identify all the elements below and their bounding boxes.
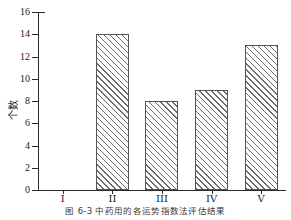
bar-series <box>38 12 286 190</box>
y-tick-label-2: 2 <box>25 163 30 173</box>
bar-slot-V <box>236 12 286 190</box>
y-tick-label-12: 12 <box>20 52 30 62</box>
y-tick-label-10: 10 <box>20 74 30 84</box>
bar-III[interactable] <box>145 101 178 190</box>
x-tick-label-I: I <box>61 194 65 204</box>
y-tick-label-4: 4 <box>25 141 30 151</box>
y-tick-label-16: 16 <box>20 7 30 17</box>
figure-caption: 图 6-3 中药用的各运势指数法评估结果 <box>0 206 291 217</box>
y-axis-title: 个数 <box>5 100 20 120</box>
bar-slot-III <box>137 12 187 190</box>
x-tick-label-III: III <box>156 194 168 204</box>
y-tick-label-14: 14 <box>20 29 30 39</box>
y-tick-label-0: 0 <box>25 185 30 195</box>
y-tick-0 <box>32 190 38 191</box>
bar-IV[interactable] <box>195 90 228 190</box>
bar-slot-I <box>38 12 88 190</box>
bar-V[interactable] <box>245 45 278 190</box>
plot-area: 0246810121416 <box>38 12 286 190</box>
bar-slot-II <box>88 12 138 190</box>
y-tick-label-8: 8 <box>25 96 30 106</box>
x-tick-label-IV: IV <box>206 194 217 204</box>
x-tick-label-II: II <box>108 194 116 204</box>
bar-II[interactable] <box>96 34 129 190</box>
x-tick-label-V: V <box>258 194 265 204</box>
figure: 个数 0246810121416 IIIIIIIVV 图 6-3 中药用的各运势… <box>0 0 291 220</box>
bar-slot-IV <box>187 12 237 190</box>
y-tick-label-6: 6 <box>25 118 30 128</box>
